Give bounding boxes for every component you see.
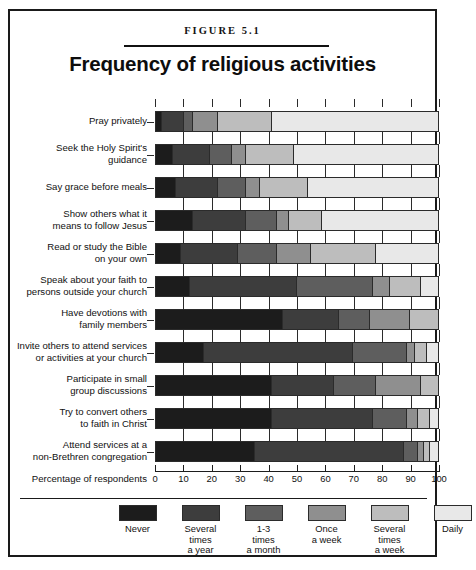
gridline bbox=[439, 363, 440, 375]
category-tick bbox=[147, 221, 154, 222]
gridline bbox=[183, 198, 184, 210]
category-tick bbox=[147, 419, 154, 420]
stacked-bar[interactable] bbox=[155, 408, 439, 429]
stacked-bar[interactable] bbox=[155, 243, 439, 264]
gridline bbox=[411, 231, 412, 243]
category-tick bbox=[147, 155, 154, 156]
gridline bbox=[325, 198, 326, 210]
gridline bbox=[439, 297, 440, 309]
legend-swatch bbox=[182, 505, 220, 521]
gridline bbox=[269, 231, 270, 243]
gridline bbox=[354, 363, 355, 375]
legend-swatch bbox=[119, 505, 157, 521]
x-axis-tick bbox=[297, 465, 298, 472]
gridline bbox=[212, 231, 213, 243]
bar-segment bbox=[156, 178, 176, 197]
gridline bbox=[297, 429, 298, 441]
bar-segment bbox=[210, 145, 233, 164]
bar-segment bbox=[246, 178, 260, 197]
gridline bbox=[325, 429, 326, 441]
legend-item[interactable]: 1-3 times a month bbox=[232, 505, 295, 556]
gridline bbox=[183, 297, 184, 309]
bar-row bbox=[155, 177, 439, 198]
gridline bbox=[183, 231, 184, 243]
category-label: Pray privately bbox=[0, 115, 147, 126]
bar-segment bbox=[272, 112, 438, 131]
bar-segment bbox=[232, 145, 246, 164]
bar-segment bbox=[427, 343, 438, 362]
gridline bbox=[354, 198, 355, 210]
bar-row bbox=[155, 375, 439, 396]
gridline bbox=[411, 297, 412, 309]
gridline bbox=[439, 429, 440, 441]
bar-segment bbox=[255, 442, 404, 461]
x-axis-tick bbox=[354, 465, 355, 472]
legend-item[interactable]: Daily bbox=[421, 505, 476, 556]
bar-segment bbox=[156, 277, 190, 296]
bar-row bbox=[155, 309, 439, 330]
gridline bbox=[439, 165, 440, 177]
bar-segment bbox=[193, 112, 218, 131]
stacked-bar[interactable] bbox=[155, 441, 439, 462]
figure-number: FIGURE 5.1 bbox=[10, 25, 435, 36]
stacked-bar[interactable] bbox=[155, 309, 439, 330]
gridline bbox=[240, 264, 241, 276]
bar-segment bbox=[260, 178, 308, 197]
stacked-bar[interactable] bbox=[155, 177, 439, 198]
legend-label: Several times a week bbox=[358, 524, 421, 556]
category-tick bbox=[147, 254, 154, 255]
gridline bbox=[297, 231, 298, 243]
gridline bbox=[354, 330, 355, 342]
gridline bbox=[240, 165, 241, 177]
legend-item[interactable]: Never bbox=[106, 505, 169, 556]
category-tick bbox=[147, 320, 154, 321]
category-label: Show others what it means to follow Jesu… bbox=[0, 208, 147, 231]
legend-item[interactable]: Once a week bbox=[295, 505, 358, 556]
x-axis-tick-label: 20 bbox=[200, 473, 224, 484]
bar-segment bbox=[156, 145, 173, 164]
gridline bbox=[212, 297, 213, 309]
bar-segment bbox=[246, 145, 294, 164]
bar-segment bbox=[376, 376, 421, 395]
bar-segment bbox=[277, 244, 311, 263]
gridline bbox=[411, 363, 412, 375]
stacked-bar[interactable] bbox=[155, 342, 439, 363]
x-axis-tick-label: 80 bbox=[370, 473, 394, 484]
bar-segment bbox=[238, 244, 277, 263]
legend-label: Once a week bbox=[295, 524, 358, 545]
legend-item[interactable]: Several times a year bbox=[169, 505, 232, 556]
stacked-bar[interactable] bbox=[155, 210, 439, 231]
gridline bbox=[325, 363, 326, 375]
gridline bbox=[269, 132, 270, 144]
bar-segment bbox=[184, 112, 192, 131]
bar-segment bbox=[156, 211, 193, 230]
gridline bbox=[411, 132, 412, 144]
bar-segment bbox=[407, 409, 418, 428]
bar-segment bbox=[176, 178, 218, 197]
category-label: Try to convert others to faith in Christ bbox=[0, 406, 147, 429]
gridline bbox=[212, 363, 213, 375]
gridline bbox=[212, 330, 213, 342]
gridline bbox=[240, 330, 241, 342]
x-axis-tick-label: 50 bbox=[285, 473, 309, 484]
gridline bbox=[382, 231, 383, 243]
bar-segment bbox=[156, 409, 272, 428]
gridline bbox=[183, 165, 184, 177]
stacked-bar[interactable] bbox=[155, 276, 439, 297]
category-label: Invite others to attend services or acti… bbox=[0, 340, 147, 363]
gridline bbox=[382, 396, 383, 408]
gridline bbox=[297, 297, 298, 309]
gridline bbox=[382, 297, 383, 309]
x-axis-tick bbox=[382, 465, 383, 472]
stacked-bar[interactable] bbox=[155, 111, 439, 132]
stacked-bar[interactable] bbox=[155, 144, 439, 165]
gridline bbox=[269, 198, 270, 210]
gridline bbox=[297, 396, 298, 408]
bar-segment bbox=[407, 343, 415, 362]
gridline bbox=[354, 165, 355, 177]
stacked-bar[interactable] bbox=[155, 375, 439, 396]
legend-item[interactable]: Several times a week bbox=[358, 505, 421, 556]
x-axis-tick-label: 100 bbox=[427, 473, 451, 484]
legend-swatch bbox=[434, 505, 472, 521]
bar-segment bbox=[156, 310, 283, 329]
